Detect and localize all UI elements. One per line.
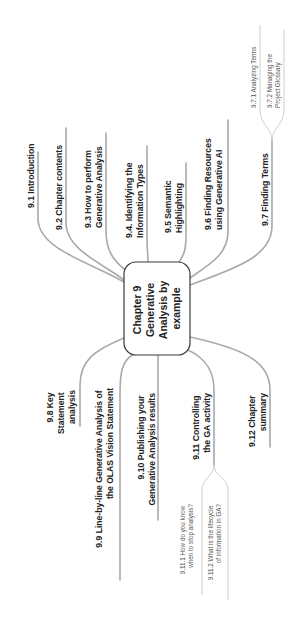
topic-9-2[interactable]: 9.2 Chapter contents [54, 145, 64, 230]
subtopic-9-11-2[interactable]: 9.11.2 What is the lifecycle of informat… [207, 504, 222, 581]
topic-9-8[interactable]: 9.8 Key Statement analysis [45, 390, 77, 434]
topic-9-5[interactable]: 9.5 Semantic Highlighting [163, 178, 184, 233]
connector-9-4 [147, 146, 148, 262]
topic-9-10[interactable]: 9.10 Publishing your Generative Analysis… [136, 393, 157, 506]
subtopic-9-7-2[interactable]: 9.7.2 Managing the Project Glossary [266, 52, 282, 108]
topic-label: 9.2 Chapter contents [54, 145, 64, 230]
connector-9-1 [38, 152, 124, 282]
topic-9-4[interactable]: 9.4. Identifying the Information Types [124, 160, 145, 238]
topic-9-3[interactable]: 9.3 How to perform Generative Analysis [83, 146, 104, 228]
subtopic-9-11-1[interactable]: 9.11.1 How do you know when to stop anal… [179, 504, 195, 575]
topic-9-11[interactable]: 9.11 Controlling the GA activity [191, 393, 212, 460]
topic-9-9[interactable]: 9.9 Line-by-line Generative Analysis of … [94, 388, 115, 548]
subtopic-label: 9.7.2 Managing the Project Glossary [266, 52, 282, 108]
topic-9-6[interactable]: 9.6 Finding Resources using Generative A… [203, 136, 224, 230]
topic-9-12[interactable]: 9.12 Chapter summary [247, 393, 268, 447]
topic-label: 9.9 Line-by-line Generative Analysis of … [94, 388, 115, 548]
topic-label: 9.4. Identifying the Information Types [124, 160, 145, 238]
topic-label: 9.12 Chapter summary [247, 393, 268, 447]
topic-label: 9.11 Controlling the GA activity [191, 393, 212, 460]
subtopic-9-7-1[interactable]: 9.7.1 Analyzing Terms [250, 47, 258, 109]
topic-label: 9.8 Key Statement analysis [45, 390, 77, 434]
topic-9-1[interactable]: 9.1 Introduction [26, 144, 36, 208]
mind-map-canvas: Chapter 9 Generative Analysis by example… [0, 0, 304, 621]
topic-label: 9.6 Finding Resources using Generative A… [203, 136, 224, 230]
connector-9-9 [120, 355, 132, 580]
topic-label: 9.5 Semantic Highlighting [163, 178, 184, 233]
branch-connectors [38, 120, 272, 285]
central-topic[interactable]: Chapter 9 Generative Analysis by example [124, 262, 190, 355]
subtopic-label: 9.11.2 What is the lifecycle of informat… [207, 504, 222, 581]
topic-label: 9.7 Finding Terms [260, 153, 270, 226]
subtopic-label: 9.7.1 Analyzing Terms [250, 47, 258, 109]
topic-label: 9.3 How to perform Generative Analysis [83, 146, 104, 228]
topic-label: 9.1 Introduction [26, 144, 36, 208]
subtopic-label: 9.11.1 How do you know when to stop anal… [179, 504, 195, 575]
topic-label: 9.10 Publishing your Generative Analysis… [136, 393, 157, 506]
topic-9-7[interactable]: 9.7 Finding Terms [260, 153, 270, 226]
